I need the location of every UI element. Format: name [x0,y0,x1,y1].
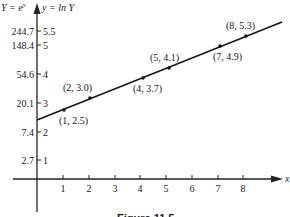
point-label: (1, 2.5) [59,115,88,127]
data-point [141,76,145,80]
point-label: (8, 5.3) [226,20,255,32]
x-tick-label: 4 [138,183,143,194]
y-ticks: 1 2 3 4 5 5.5 2.7 7.4 20.1 54.6 148.4 24… [12,26,56,166]
data-point [167,66,171,70]
data-point [218,44,222,48]
x-axis-label: x [284,173,290,184]
Y-tick-label: 244.7 [12,26,35,37]
chart: x Y = ey y = ln Y 1 2 3 4 5 5.5 2.7 7.4 … [0,0,290,217]
point-labels: (1, 2.5) (2, 3.0) (4, 3.7) (5, 4.1) (7, … [59,20,255,127]
point-label: (7, 4.9) [213,51,242,63]
x-tick-label: 7 [216,183,221,194]
y-tick-label: 5 [43,40,48,51]
Y-tick-label: 148.4 [12,40,35,51]
point-label: (2, 3.0) [63,82,92,94]
data-point [88,96,92,100]
point-label: (5, 4.1) [150,52,179,64]
x-tick-label: 5 [164,183,169,194]
point-label: (4, 3.7) [133,83,162,95]
y-tick-label: 3 [43,98,48,109]
x-tick-label: 2 [87,183,92,194]
Y-tick-label: 7.4 [22,127,35,138]
y-tick-label: 2 [43,127,48,138]
x-ticks: 1 2 3 4 5 6 7 8 [61,175,246,194]
x-tick-label: 1 [61,183,66,194]
y-left-axis-title: Y = ey [1,1,27,13]
y-axis-arrow-icon [34,3,41,14]
data-point [62,108,66,112]
x-tick-label: 3 [113,183,118,194]
figure-caption: Figure 11.5 [117,212,174,217]
data-point [244,34,248,38]
Y-tick-label: 54.6 [17,69,35,80]
y-tick-label: 1 [43,155,48,166]
Y-tick-label: 2.7 [22,155,35,166]
Y-tick-label: 20.1 [17,98,35,109]
x-tick-label: 8 [241,183,246,194]
x-axis-arrow-icon [271,176,283,183]
x-tick-label: 6 [190,183,195,194]
y-tick-label: 5.5 [43,26,56,37]
y-right-axis-title: y = ln Y [41,2,75,13]
y-tick-label: 4 [43,69,48,80]
